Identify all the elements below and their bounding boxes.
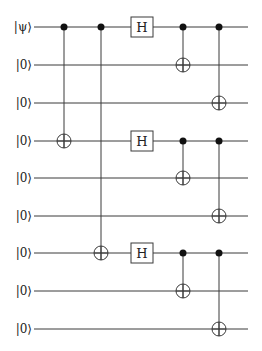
cnot-target-icon bbox=[94, 246, 108, 260]
control-dot-icon bbox=[61, 24, 68, 31]
cnot-links bbox=[64, 27, 219, 336]
gate-label: H bbox=[136, 246, 147, 261]
cnot-target-icon bbox=[176, 284, 190, 298]
gate-label: H bbox=[136, 20, 147, 35]
hadamard-gate: H bbox=[131, 131, 153, 151]
qubit-label: |0⟩ bbox=[16, 209, 32, 223]
qubit-label: |0⟩ bbox=[16, 134, 32, 148]
cnot-target-icon bbox=[176, 58, 190, 72]
control-dot-icon bbox=[180, 250, 187, 257]
cnot-target-icon bbox=[212, 209, 226, 223]
hadamard-gate: H bbox=[131, 243, 153, 263]
control-dot-icon bbox=[216, 138, 223, 145]
qubit-label: |0⟩ bbox=[16, 284, 32, 298]
qubit-label: |ψ⟩ bbox=[14, 20, 32, 34]
control-dot-icon bbox=[216, 24, 223, 31]
control-dot-icon bbox=[180, 24, 187, 31]
qubit-label: |0⟩ bbox=[16, 246, 32, 260]
gate-label: H bbox=[136, 134, 147, 149]
qubit-wires bbox=[34, 27, 248, 329]
quantum-circuit-diagram: |ψ⟩|0⟩|0⟩|0⟩|0⟩|0⟩|0⟩|0⟩|0⟩ HHH bbox=[0, 0, 262, 351]
qubit-label: |0⟩ bbox=[16, 96, 32, 110]
qubit-labels: |ψ⟩|0⟩|0⟩|0⟩|0⟩|0⟩|0⟩|0⟩|0⟩ bbox=[14, 20, 32, 336]
cnot-target-icon bbox=[212, 96, 226, 110]
qubit-label: |0⟩ bbox=[16, 171, 32, 185]
cnot-target-icon bbox=[212, 322, 226, 336]
control-dot-icon bbox=[98, 24, 105, 31]
control-dot-icon bbox=[216, 250, 223, 257]
cnot-target-icon bbox=[176, 171, 190, 185]
qubit-label: |0⟩ bbox=[16, 322, 32, 336]
control-dot-icon bbox=[180, 138, 187, 145]
hadamard-gate: H bbox=[131, 17, 153, 37]
qubit-label: |0⟩ bbox=[16, 58, 32, 72]
cnot-target-icon bbox=[57, 134, 71, 148]
